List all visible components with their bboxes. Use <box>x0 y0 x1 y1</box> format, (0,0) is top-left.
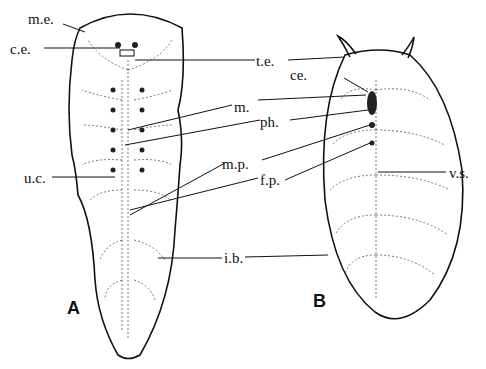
panel-label-a: A <box>67 299 80 317</box>
label-intestinal-branches: i.b. <box>224 251 243 266</box>
label-ventral-sucker: v.s. <box>449 166 469 181</box>
label-cerebral-eyes-a: c.e. <box>10 42 31 57</box>
label-mouth: m. <box>234 100 249 115</box>
panel-label-b: B <box>313 292 326 310</box>
label-cerebral-eyes-b: ce. <box>290 68 307 83</box>
label-female-pore: f.p. <box>260 173 280 188</box>
label-pharynx: ph. <box>260 115 279 130</box>
flatworm-anatomy-diagram: m.e. c.e. t.e. ce. m. ph. m.p. f.p. u.c.… <box>0 0 486 369</box>
label-uterine-canal: u.c. <box>24 171 46 186</box>
label-marginal-eyes: m.e. <box>28 12 54 27</box>
label-tentacular-eyes: t.e. <box>256 54 274 69</box>
specimen-b-outline <box>324 50 463 319</box>
label-male-pore: m.p. <box>222 157 249 172</box>
specimen-a-outline <box>69 14 183 359</box>
